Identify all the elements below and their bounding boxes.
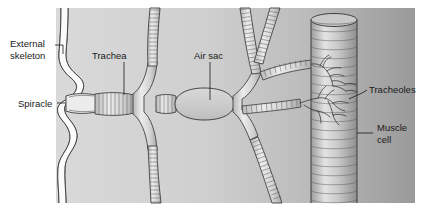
spiracle-opening: [66, 94, 96, 114]
air-sac: [175, 88, 234, 120]
label-external-skeleton: External skeleton: [10, 38, 45, 61]
label-air-sac: Air sac: [194, 50, 223, 61]
label-trachea: Trachea: [92, 50, 127, 61]
diagram-canvas: External skeleton Trachea Air sac Spirac…: [0, 0, 423, 215]
label-muscle-cell-line2: cell: [377, 134, 391, 145]
label-external-skeleton-line2: skeleton: [10, 50, 45, 61]
label-spiracle: Spiracle: [18, 98, 52, 109]
label-muscle-cell-line1: Muscle: [377, 122, 407, 133]
label-external-skeleton-line1: External: [10, 38, 45, 49]
trachea-main-horizontal: [95, 93, 134, 116]
trachea-to-air-sac: [156, 94, 176, 114]
insect-tracheal-system-diagram: External skeleton Trachea Air sac Spirac…: [0, 0, 423, 215]
muscle-cell: [311, 14, 357, 204]
label-tracheoles: Tracheoles: [369, 84, 416, 95]
